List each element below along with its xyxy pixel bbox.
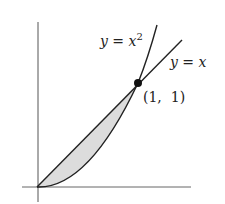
parabola-y-equals-x-squared (37, 25, 157, 187)
parabola-label: y = x2 (99, 31, 143, 49)
intersection-point (134, 79, 142, 87)
diagram-canvas: y = x2 y = x (1, 1) (0, 0, 225, 204)
line-y-equals-x (37, 40, 182, 187)
intersection-label: (1, 1) (143, 89, 185, 105)
line-label: y = x (169, 54, 207, 70)
